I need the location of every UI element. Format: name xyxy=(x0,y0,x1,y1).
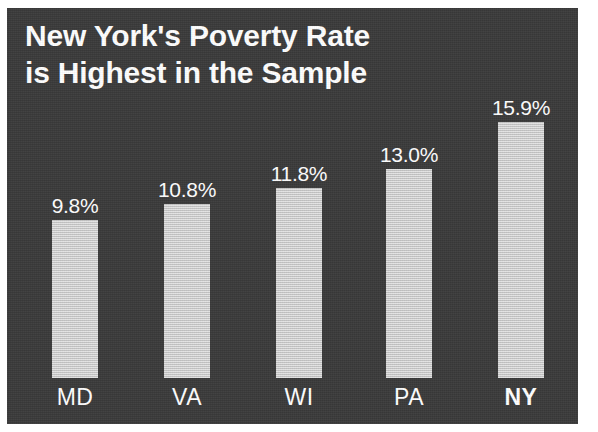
bar-label-md: MD xyxy=(29,384,121,411)
bar-value-va: 10.8% xyxy=(141,178,233,202)
bar-md xyxy=(52,220,98,378)
bar-label-va: VA xyxy=(141,384,233,411)
bar-wi xyxy=(276,188,322,378)
bar-value-wi: 11.8% xyxy=(253,162,345,186)
bar-value-md: 9.8% xyxy=(29,194,121,218)
bar-ny xyxy=(498,122,544,378)
bar-pa xyxy=(386,169,432,378)
bar-label-pa: PA xyxy=(363,384,455,411)
chart-panel: New York's Poverty Rate is Highest in th… xyxy=(7,8,578,424)
chart-figure: New York's Poverty Rate is Highest in th… xyxy=(0,0,598,432)
bar-label-wi: WI xyxy=(253,384,345,411)
bar-va xyxy=(164,204,210,378)
bar-value-pa: 13.0% xyxy=(363,143,455,167)
bar-value-ny: 15.9% xyxy=(475,96,567,120)
bar-label-ny: NY xyxy=(475,384,567,411)
plot-area: 9.8% MD 10.8% VA 11.8% WI 13.0% PA 15.9% xyxy=(7,8,578,424)
